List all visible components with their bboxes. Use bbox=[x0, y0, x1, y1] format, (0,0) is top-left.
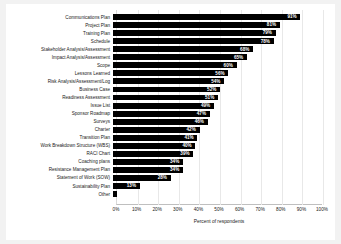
category-label: Sustainability Plan bbox=[6, 184, 113, 189]
bar[interactable] bbox=[113, 78, 224, 84]
bar-track: 13% bbox=[113, 182, 321, 190]
bar[interactable] bbox=[113, 46, 253, 52]
category-label: Coaching plans bbox=[6, 159, 113, 164]
bar[interactable] bbox=[113, 54, 247, 60]
bar[interactable] bbox=[113, 119, 208, 125]
bar-track: 41% bbox=[113, 134, 321, 142]
bar-track bbox=[113, 190, 321, 198]
bar-track: 42% bbox=[113, 126, 321, 134]
bar[interactable] bbox=[113, 38, 274, 44]
bar-row: Readiness Assessment51% bbox=[6, 93, 335, 101]
category-label: Communications Plan bbox=[6, 15, 113, 20]
bar-value-label: 40% bbox=[182, 143, 191, 148]
bar-track: 79% bbox=[113, 29, 321, 37]
category-label: Business Case bbox=[6, 87, 113, 92]
x-tick-label: 10% bbox=[132, 207, 141, 213]
x-tick-label: 50% bbox=[214, 207, 223, 213]
bar-track: 60% bbox=[113, 61, 321, 69]
bar-row: Impact Analysis/Assessment65% bbox=[6, 53, 335, 61]
x-tick-label: 20% bbox=[152, 207, 161, 213]
bar-value-label: 78% bbox=[261, 39, 270, 44]
bar[interactable] bbox=[113, 62, 237, 68]
x-tick-label: 80% bbox=[276, 207, 285, 213]
bar-row: Stakeholder Analysis/Assessment68% bbox=[6, 45, 335, 53]
bar-track: 52% bbox=[113, 85, 321, 93]
bar[interactable] bbox=[113, 95, 218, 101]
category-label: Work Breakdown Structure (WBS) bbox=[6, 143, 113, 148]
bar-track: 68% bbox=[113, 45, 321, 53]
bar-track: 65% bbox=[113, 53, 321, 61]
bar-value-label: 68% bbox=[240, 47, 249, 52]
category-label: Training Plan bbox=[6, 31, 113, 36]
bar-row: Lessons Learned56% bbox=[6, 69, 335, 77]
category-label: Statement of Work (SOW) bbox=[6, 175, 113, 180]
chart-card: Communications Plan91%Project Plan81%Tra… bbox=[6, 4, 335, 240]
bar-row: Schedule78% bbox=[6, 37, 335, 45]
bar-track: 34% bbox=[113, 158, 321, 166]
bar-value-label: 34% bbox=[170, 167, 179, 172]
bar-value-label: 65% bbox=[234, 55, 243, 60]
x-tick-label: 90% bbox=[297, 207, 306, 213]
bar[interactable] bbox=[113, 30, 276, 36]
category-label: Sponsor Roadmap bbox=[6, 111, 113, 116]
bar-track: 46% bbox=[113, 118, 321, 126]
bar[interactable] bbox=[113, 111, 210, 117]
category-label: Transition Plan bbox=[6, 135, 113, 140]
bar-row: Charter42% bbox=[6, 126, 335, 134]
category-label: Charter bbox=[6, 127, 113, 132]
bar-rows: Communications Plan91%Project Plan81%Tra… bbox=[6, 13, 335, 198]
bar-value-label: 28% bbox=[158, 175, 167, 180]
bar-row: Transition Plan41% bbox=[6, 134, 335, 142]
bar[interactable] bbox=[113, 87, 220, 93]
bar-row: Project Plan81% bbox=[6, 21, 335, 29]
bar-row: Work Breakdown Structure (WBS)40% bbox=[6, 142, 335, 150]
category-label: Project Plan bbox=[6, 23, 113, 28]
category-label: Resistance Management Plan bbox=[6, 167, 113, 172]
category-label: Readiness Assessment bbox=[6, 95, 113, 100]
bar-value-label: 81% bbox=[267, 22, 276, 27]
bar-track: 81% bbox=[113, 21, 321, 29]
category-label: Scope bbox=[6, 63, 113, 68]
bar-value-label: 42% bbox=[187, 127, 196, 132]
bar-track: 28% bbox=[113, 174, 321, 182]
x-tick-label: 0% bbox=[113, 207, 120, 213]
bar-value-label: 49% bbox=[201, 103, 210, 108]
bar-value-label: 13% bbox=[127, 183, 136, 188]
bar-value-label: 41% bbox=[184, 135, 193, 140]
bar-value-label: 60% bbox=[224, 63, 233, 68]
x-tick-label: 40% bbox=[194, 207, 203, 213]
bar-track: 78% bbox=[113, 37, 321, 45]
bar-value-label: 54% bbox=[211, 79, 220, 84]
bar-track: 56% bbox=[113, 69, 321, 77]
bar-row: Sponsor Roadmap47% bbox=[6, 110, 335, 118]
bar-row: Other bbox=[6, 190, 335, 198]
bar-row: RACI Chart39% bbox=[6, 150, 335, 158]
bar[interactable] bbox=[113, 103, 214, 109]
bar-value-label: 46% bbox=[195, 119, 204, 124]
bar[interactable] bbox=[113, 191, 117, 197]
x-axis-tick-labels: 0%10%20%30%40%50%60%70%80%90%100% bbox=[116, 207, 322, 217]
bar-row: Coaching plans34% bbox=[6, 158, 335, 166]
bar-row: Statement of Work (SOW)28% bbox=[6, 174, 335, 182]
x-tick-label: 30% bbox=[173, 207, 182, 213]
bar-track: 54% bbox=[113, 77, 321, 85]
x-axis-title: Percent of respondents bbox=[116, 219, 322, 224]
bar-value-label: 51% bbox=[205, 95, 214, 100]
bar[interactable] bbox=[113, 14, 300, 20]
bar-value-label: 91% bbox=[287, 14, 296, 19]
bar-chart: Communications Plan91%Project Plan81%Tra… bbox=[6, 4, 335, 240]
bar-row: Issue List49% bbox=[6, 102, 335, 110]
bar-value-label: 34% bbox=[170, 159, 179, 164]
bar-value-label: 39% bbox=[180, 151, 189, 156]
bar[interactable] bbox=[113, 70, 228, 76]
bar[interactable] bbox=[113, 22, 280, 28]
category-label: Impact Analysis/Assessment bbox=[6, 55, 113, 60]
bar-row: Training Plan79% bbox=[6, 29, 335, 37]
category-label: Risk Analysis/Assessment/Log bbox=[6, 79, 113, 84]
category-label: Surveys bbox=[6, 119, 113, 124]
bar-value-label: 79% bbox=[263, 30, 272, 35]
category-label: Lessons Learned bbox=[6, 71, 113, 76]
bar-track: 34% bbox=[113, 166, 321, 174]
bar-track: 51% bbox=[113, 93, 321, 101]
x-tick-label: 60% bbox=[235, 207, 244, 213]
